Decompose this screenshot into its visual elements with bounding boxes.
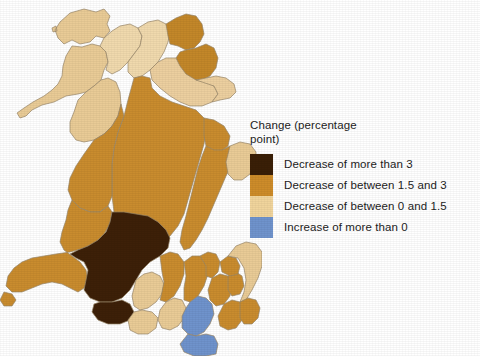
legend-title-line-2: point) xyxy=(250,133,279,145)
region-vale-of-glamorgan[interactable] xyxy=(180,334,218,356)
legend-swatch-increase-more-than-0 xyxy=(250,217,273,238)
region-pembrokeshire-tip[interactable] xyxy=(0,292,16,306)
choropleth-figure: Change (percentage point) Decrease of mo… xyxy=(0,0,480,356)
legend-label-increase-more-than-0: Increase of more than 0 xyxy=(284,221,408,234)
region-isle-of-anglesey[interactable] xyxy=(52,9,110,44)
legend-swatch-decrease-more-than-3 xyxy=(250,154,273,175)
legend-item-decrease-more-than-3[interactable]: Decrease of more than 3 xyxy=(249,154,480,175)
region-swansea-gower[interactable] xyxy=(128,310,158,334)
legend: Change (percentage point) Decrease of mo… xyxy=(249,119,480,238)
legend-item-decrease-0-to-1p5[interactable]: Decrease of between 0 and 1.5 xyxy=(249,196,480,217)
region-flintshire[interactable] xyxy=(166,14,204,50)
region-cardiff[interactable] xyxy=(182,296,214,336)
region-blaenau-gwent[interactable] xyxy=(220,256,240,276)
legend-swatch-decrease-1p5-to-3 xyxy=(250,175,273,196)
legend-swatch-decrease-0-to-1p5 xyxy=(250,196,273,217)
region-carmarthenshire-lower[interactable] xyxy=(92,300,134,324)
legend-title: Change (percentage point) xyxy=(250,119,378,146)
legend-item-increase-more-than-0[interactable]: Increase of more than 0 xyxy=(249,217,480,238)
legend-label-decrease-more-than-3: Decrease of more than 3 xyxy=(284,158,413,171)
legend-label-decrease-0-to-1p5: Decrease of between 0 and 1.5 xyxy=(284,200,447,213)
legend-label-decrease-1p5-to-3: Decrease of between 1.5 and 3 xyxy=(284,179,447,192)
wales-map[interactable] xyxy=(0,0,262,356)
map-svg xyxy=(0,0,262,356)
region-neath-port-talbot[interactable] xyxy=(160,252,184,302)
legend-title-line-1: Change (percentage xyxy=(250,119,357,131)
region-monmouthshire-lower[interactable] xyxy=(240,298,260,324)
legend-item-decrease-1p5-to-3[interactable]: Decrease of between 1.5 and 3 xyxy=(249,175,480,196)
